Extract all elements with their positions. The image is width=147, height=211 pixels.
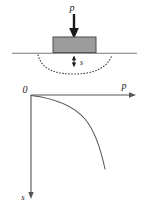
y-axis-arrow-head bbox=[28, 192, 33, 199]
x-axis-arrow-head bbox=[129, 92, 136, 97]
x-axis-label-p: p bbox=[121, 80, 127, 91]
y-axis-label-s: s bbox=[21, 192, 25, 202]
settlement-arrow-head-down bbox=[72, 63, 76, 68]
load-settlement-data-curve bbox=[31, 96, 105, 170]
foundation-settlement-schematic: p s bbox=[12, 2, 137, 74]
origin-label-zero: 0 bbox=[23, 84, 28, 95]
footing-block bbox=[53, 37, 96, 53]
load-label-p: p bbox=[69, 2, 75, 13]
load-settlement-figure: p s 0 p s bbox=[0, 0, 147, 211]
settlement-label-s: s bbox=[80, 58, 83, 67]
load-settlement-curve: 0 p s bbox=[21, 80, 136, 202]
figure-canvas: p s 0 p s bbox=[0, 0, 147, 211]
settlement-arrow-head-up bbox=[72, 56, 76, 61]
